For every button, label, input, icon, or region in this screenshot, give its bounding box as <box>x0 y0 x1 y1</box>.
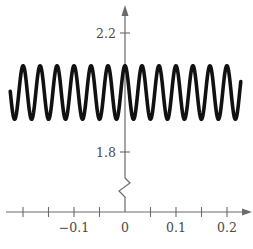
chart: −0.100.10.2 2.21.8 <box>0 0 253 249</box>
x-axis: −0.100.10.2 <box>6 207 252 235</box>
plot-area: −0.100.10.2 2.21.8 <box>0 0 253 249</box>
x-tick-label: −0.1 <box>59 220 89 235</box>
y-tick-label: 1.8 <box>96 145 116 160</box>
y-axis-arrow-icon <box>122 5 129 16</box>
y-tick-label: 2.2 <box>96 26 116 41</box>
x-tick-label: 0.2 <box>217 220 237 235</box>
x-tick-label: 0.1 <box>166 220 186 235</box>
x-tick-label: 0 <box>121 220 129 235</box>
y-axis-line <box>119 13 130 212</box>
x-axis-arrow-icon <box>242 209 252 216</box>
